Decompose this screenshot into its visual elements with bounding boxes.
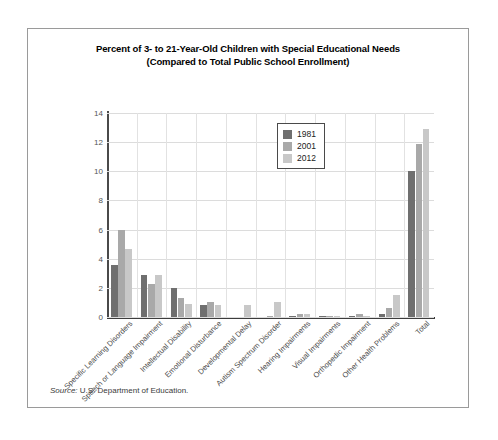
source-keyword: Source: xyxy=(50,386,78,395)
bar xyxy=(118,230,125,317)
chart-legend[interactable]: 198120012012 xyxy=(277,123,325,169)
bar xyxy=(125,249,132,317)
bar xyxy=(200,305,207,317)
legend-swatch-icon xyxy=(283,142,292,151)
bar xyxy=(141,275,148,317)
source-text: U.S. Department of Education. xyxy=(78,386,189,395)
bar-group xyxy=(166,113,196,317)
bar xyxy=(319,316,326,317)
bar xyxy=(349,316,356,317)
bar xyxy=(215,305,222,317)
bar-group xyxy=(404,113,434,317)
legend-item[interactable]: 1981 xyxy=(283,128,316,140)
y-tick-label: 12 xyxy=(81,138,103,147)
bar xyxy=(148,284,155,318)
bar xyxy=(423,129,430,317)
x-axis-label: Emotional Disturbance xyxy=(163,319,223,379)
chart-title: Percent of 3- to 21-Year-Old Children wi… xyxy=(28,43,468,68)
bar xyxy=(379,314,386,317)
legend-item[interactable]: 2001 xyxy=(283,140,316,152)
x-axis-label: Other Health Problems xyxy=(341,319,402,380)
bar xyxy=(267,316,274,317)
x-axis-label: Developmental Delay xyxy=(196,319,253,376)
bar xyxy=(334,316,341,317)
y-tick-label: 10 xyxy=(81,167,103,176)
bar xyxy=(274,302,281,317)
bar xyxy=(408,171,415,317)
bar-group xyxy=(226,113,256,317)
bar xyxy=(171,288,178,317)
y-axis-tick-labels: 02468101214 xyxy=(78,113,103,317)
bar xyxy=(155,275,162,317)
bar-group xyxy=(375,113,405,317)
legend-label: 2012 xyxy=(297,153,316,163)
legend-swatch-icon xyxy=(283,154,292,163)
bar xyxy=(326,316,333,317)
figure-frame: Percent of 3- to 21-Year-Old Children wi… xyxy=(27,28,469,408)
legend-label: 2001 xyxy=(297,141,316,151)
bar xyxy=(178,298,185,317)
bar xyxy=(244,305,251,317)
y-tick-label: 2 xyxy=(81,283,103,292)
bar xyxy=(393,295,400,317)
x-axis-category-labels: Specific Learning DisordersSpeech or Lan… xyxy=(107,319,435,419)
chart-title-line2: (Compared to Total Public School Enrollm… xyxy=(28,56,468,69)
bar-group xyxy=(107,113,137,317)
y-tick-label: 14 xyxy=(81,109,103,118)
bar xyxy=(111,265,118,317)
bar xyxy=(297,314,304,317)
bar xyxy=(289,316,296,317)
bar-group xyxy=(345,113,375,317)
bar-group xyxy=(137,113,167,317)
x-axis-label: Total xyxy=(414,319,432,337)
bar xyxy=(416,144,423,317)
bar xyxy=(304,314,311,317)
plot-area xyxy=(107,113,434,317)
source-note: Source: U.S. Department of Education. xyxy=(50,386,188,395)
bar xyxy=(207,302,214,317)
y-tick-label: 6 xyxy=(81,225,103,234)
x-axis-label: Hearing Impairments xyxy=(256,319,312,375)
bar xyxy=(363,316,370,317)
bar xyxy=(386,308,393,317)
legend-swatch-icon xyxy=(283,130,292,139)
x-axis-label: Intellectual Disability xyxy=(139,319,194,374)
legend-label: 1981 xyxy=(297,129,316,139)
chart-title-line1: Percent of 3- to 21-Year-Old Children wi… xyxy=(96,43,400,54)
bar-group xyxy=(196,113,226,317)
bar xyxy=(356,314,363,317)
y-tick-label: 0 xyxy=(81,313,103,322)
legend-item[interactable]: 2012 xyxy=(283,152,316,164)
bar xyxy=(185,304,192,317)
y-tick-label: 8 xyxy=(81,196,103,205)
gridline-horizontal xyxy=(107,317,434,318)
y-tick-label: 4 xyxy=(81,254,103,263)
